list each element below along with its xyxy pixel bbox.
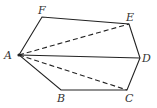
diagonal-AC-dashed [19, 55, 127, 90]
label-A: A [3, 49, 12, 62]
label-B: B [56, 92, 65, 105]
label-C: C [125, 92, 134, 105]
label-E: E [125, 11, 134, 24]
label-F: F [37, 4, 46, 17]
vertex-point-A [17, 53, 20, 56]
label-D: D [141, 52, 151, 65]
hexagon-diagram: A F E D C B [0, 0, 157, 108]
diagonal-AD [19, 55, 140, 58]
hexagon-outline [19, 17, 140, 90]
